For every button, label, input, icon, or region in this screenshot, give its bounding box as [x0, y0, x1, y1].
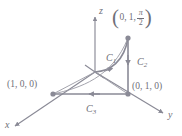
- coordinate-diagram: z x y (1, 0, 0) (0, 1, 0) ( 0, 1, π 2 ) …: [0, 0, 182, 136]
- paren-close: ): [145, 10, 152, 25]
- curve-label-c1-subscript: 1: [113, 57, 117, 65]
- fraction-numerator: π: [139, 9, 143, 18]
- curve-label-c1-base: C: [106, 52, 113, 63]
- x-axis-label: x: [5, 120, 9, 130]
- curve-label-c3-subscript: 3: [93, 108, 97, 116]
- point-label-top-fraction: π 2: [137, 9, 144, 27]
- x-axis-negative-stub: [85, 65, 95, 72]
- curve-label-c1: C1: [106, 53, 116, 65]
- curve-label-c2-base: C: [137, 56, 144, 67]
- point-label-top-x: 0,: [120, 13, 127, 23]
- point-label-x: (1, 0, 0): [7, 80, 37, 90]
- point-label-y: (0, 1, 0): [132, 82, 162, 92]
- curve-label-c2: C2: [137, 57, 147, 69]
- vertex-dot-x: [50, 91, 55, 96]
- paren-open: (: [112, 10, 119, 25]
- point-label-top: ( 0, 1, π 2 ): [112, 9, 152, 27]
- point-label-top-y: 1,: [129, 13, 136, 23]
- point-label-top-inner: 0, 1, π 2: [119, 9, 145, 27]
- vertex-dot-y: [125, 91, 130, 96]
- curve-label-c3-base: C: [86, 103, 93, 114]
- z-axis-label: z: [99, 6, 103, 16]
- y-axis-label: y: [168, 110, 172, 120]
- connector-x-to-origin: [53, 72, 95, 94]
- fraction-denominator: 2: [139, 19, 143, 28]
- curve-label-c2-subscript: 2: [144, 61, 148, 69]
- connector-origin-to-y: [95, 72, 128, 94]
- vertex-dot-top: [125, 35, 130, 40]
- curve-label-c3: C3: [86, 104, 96, 116]
